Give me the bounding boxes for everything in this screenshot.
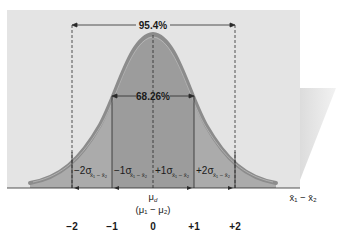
svg-text:+1σ: +1σ <box>155 165 173 176</box>
z-tick-minus-2: −2 <box>66 221 78 232</box>
svg-text:x̄₁ − x̄₂: x̄₁ − x̄₂ <box>90 172 108 178</box>
z-tick-minus-1: −1 <box>106 221 118 232</box>
svg-text:+2σ: +2σ <box>196 165 214 176</box>
z-tick-zero: 0 <box>150 221 156 232</box>
shadow-shape <box>300 88 336 180</box>
z-tick-plus-2: +2 <box>229 221 241 232</box>
inner-interval-label: 68.26% <box>136 91 170 102</box>
normal-curve-diagram: 95.4% 68.26% −2σ x̄₁ − x̄₂ −1σ x̄₁ − x̄₂… <box>0 0 342 244</box>
svg-text:x̄₁ − x̄₂: x̄₁ − x̄₂ <box>172 172 190 178</box>
axis-label: x̄₁ − x̄₂ <box>289 192 317 203</box>
outer-interval-label: 95.4% <box>139 20 167 31</box>
z-tick-plus-1: +1 <box>188 221 200 232</box>
svg-text:x̄₁ − x̄₂: x̄₁ − x̄₂ <box>130 172 148 178</box>
mean-label: μd <box>149 191 158 203</box>
svg-text:x̄₁ − x̄₂: x̄₁ − x̄₂ <box>213 172 231 178</box>
mean-sublabel: (μ₁ − μ₂) <box>136 204 171 215</box>
